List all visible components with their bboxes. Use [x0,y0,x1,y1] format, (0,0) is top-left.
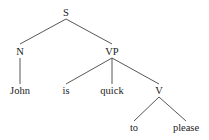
node-v: V [155,86,163,97]
leaf-to: to [130,123,138,134]
leaf-quick: quick [100,86,123,97]
node-vp: VP [105,47,118,58]
edge-vp-is [66,58,112,84]
node-s: S [63,8,69,19]
leaf-john: John [10,86,30,97]
node-n: N [16,47,24,58]
edge-s-n [20,19,66,44]
tree-edges [0,0,209,140]
edge-v-to [134,97,159,121]
edge-v-please [159,97,186,121]
leaf-is: is [62,86,69,97]
leaf-please: please [173,123,199,134]
edge-s-vp [66,19,112,44]
syntax-tree-diagram: S N VP John is quick V to please [0,0,209,140]
edge-vp-v [112,58,159,84]
